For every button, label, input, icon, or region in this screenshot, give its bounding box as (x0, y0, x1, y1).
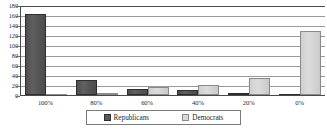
bar-group (274, 6, 325, 95)
bar-democrats-40pct (198, 85, 219, 96)
x-tick-label: 0% (274, 97, 325, 108)
x-tick-label: 100% (20, 97, 71, 108)
bar-republicans-0pct (279, 94, 300, 95)
y-axis: 180160140120100806040200 (0, 0, 20, 96)
bar-democrats-80pct (97, 93, 118, 95)
bars-layer (21, 6, 325, 95)
bar-republicans-20pct (228, 93, 249, 95)
bar-group (224, 6, 275, 95)
chart-legend: RepublicansDemocrats (86, 110, 241, 125)
legend-label: Democrats (192, 114, 223, 122)
bar-democrats-60pct (148, 87, 169, 95)
bar-group (72, 6, 123, 95)
bar-republicans-100pct (25, 14, 46, 95)
bar-group (173, 6, 224, 95)
bar-republicans-40pct (177, 90, 198, 96)
legend-entry[interactable]: Republicans (104, 114, 150, 122)
bar-group (122, 6, 173, 95)
republicans-swatch (104, 114, 111, 121)
democrats-swatch (182, 114, 189, 121)
bar-democrats-0pct (300, 31, 321, 95)
x-tick-label: 80% (71, 97, 122, 108)
bar-chart: 180160140120100806040200 100%80%60%40%20… (0, 0, 327, 131)
bar-republicans-80pct (76, 80, 97, 96)
bar-group (21, 6, 72, 95)
legend-entry[interactable]: Democrats (182, 114, 223, 122)
bar-democrats-100pct (46, 94, 67, 95)
x-tick-label: 60% (122, 97, 173, 108)
bar-democrats-20pct (249, 78, 270, 96)
legend-label: Republicans (114, 114, 150, 122)
x-axis: 100%80%60%40%20%0% (20, 97, 325, 108)
plot-area (20, 6, 325, 96)
x-tick-label: 20% (223, 97, 274, 108)
bar-republicans-60pct (127, 89, 148, 96)
x-tick-label: 40% (172, 97, 223, 108)
